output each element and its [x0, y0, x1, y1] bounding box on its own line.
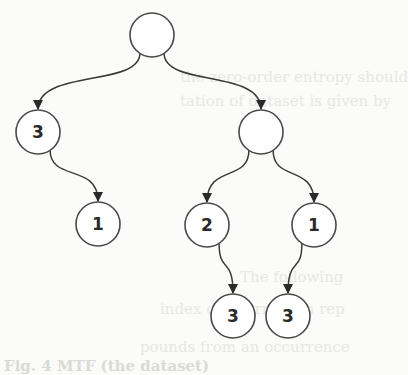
tree-node-left-right: 1: [76, 202, 120, 246]
node-label: 3: [227, 306, 239, 326]
node-label: 3: [282, 306, 294, 326]
tree-node-right-left-child: 3: [211, 294, 255, 338]
tree-node-root: [130, 13, 174, 57]
node-label: 1: [92, 214, 104, 234]
node-label: 3: [32, 122, 44, 142]
node-circle: [130, 13, 174, 57]
tree-node-right-left: 2: [185, 203, 229, 247]
edge-right-right-to-right-right-child: [288, 243, 302, 293]
edge-left-to-left-right: [50, 150, 98, 201]
tree-node-right: [239, 110, 283, 154]
tree-node-right-right: 1: [292, 203, 336, 247]
edge-root-to-left: [38, 53, 140, 109]
node-label: 1: [308, 215, 320, 235]
node-label: 2: [201, 215, 213, 235]
edge-right-to-right-right: [273, 150, 314, 202]
edge-right-left-to-right-left-child: [219, 243, 233, 293]
tree-node-right-right-child: 3: [266, 294, 310, 338]
tree-edges: [38, 53, 314, 293]
edge-root-to-right: [164, 53, 261, 109]
tree-node-left: 3: [16, 110, 60, 154]
edge-right-to-right-left: [207, 150, 249, 202]
node-circle: [239, 110, 283, 154]
